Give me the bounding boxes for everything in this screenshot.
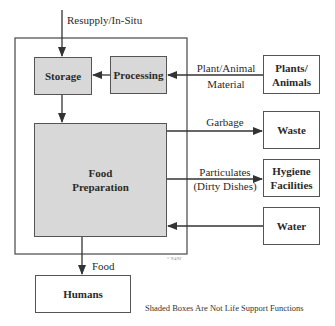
plant-material-label-1: Plant/Animal (193, 62, 259, 74)
particulates-label-2: (Dirty Dishes) (186, 180, 264, 192)
plants-animals-box: Plants/ Animals (263, 55, 320, 94)
legend-note: Shaded Boxes Are Not Life Support Functi… (145, 303, 304, 313)
processing-box: Processing (110, 56, 167, 94)
particulates-label-1: Particulates (188, 166, 262, 178)
storage-label: Storage (45, 69, 81, 83)
humans-box: Humans (35, 275, 131, 313)
hygiene-label-2: Facilities (270, 178, 312, 192)
food-label: Food (92, 260, 115, 272)
hygiene-label-1: Hygiene (272, 164, 311, 178)
food-preparation-label-1: Food (89, 166, 113, 180)
water-box: Water (263, 207, 320, 245)
processing-label: Processing (114, 68, 164, 82)
plants-label-2: Animals (272, 75, 311, 89)
food-preparation-label-2: Preparation (72, 180, 129, 194)
copyright-mark: © 9/4/92 (167, 256, 181, 261)
storage-box: Storage (34, 57, 92, 95)
food-preparation-box: Food Preparation (34, 123, 167, 237)
waste-label: Waste (277, 123, 306, 137)
water-label: Water (277, 219, 306, 233)
plants-label-1: Plants/ (275, 61, 307, 75)
waste-box: Waste (263, 111, 320, 149)
hygiene-facilities-box: Hygiene Facilities (263, 159, 320, 197)
garbage-label: Garbage (196, 116, 254, 128)
resupply-label: Resupply/In-Situ (67, 14, 142, 26)
humans-label: Humans (63, 287, 103, 301)
plant-material-label-2: Material (193, 78, 259, 90)
